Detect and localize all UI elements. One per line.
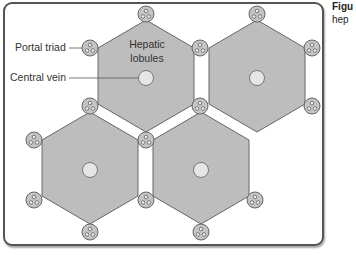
figure-caption-text: hep <box>332 14 349 25</box>
hepatic-lobule-diagram <box>0 0 356 255</box>
central-vein-icon <box>139 71 154 86</box>
central-vein-icon <box>83 163 98 178</box>
lobule-top-left <box>98 20 194 132</box>
central-vein-label: Central vein <box>10 71 66 83</box>
central-vein-icon <box>250 71 265 86</box>
lobule-top-right <box>209 20 305 132</box>
lobule-bottom-left <box>42 112 138 224</box>
figure-caption-title: Figu <box>332 1 353 12</box>
portal-triad-label: Portal triad <box>15 41 66 53</box>
hepatic-lobules-label-line1: Hepatic <box>127 38 167 50</box>
lobule-bottom-right <box>153 112 249 224</box>
hepatic-lobules-label-line2: lobules <box>127 52 167 64</box>
central-vein-icon <box>194 163 209 178</box>
